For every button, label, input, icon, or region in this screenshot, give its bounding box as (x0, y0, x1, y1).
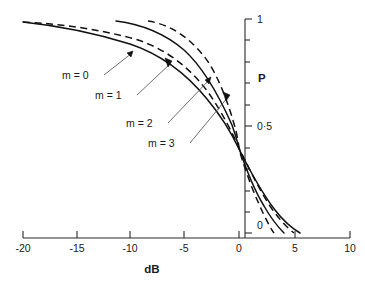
chart-canvas: -20 -15 -10 -5 0 5 10 1 0·5 0 dB P m = 0… (0, 0, 365, 286)
x-tick-label--15: -15 (69, 242, 84, 254)
x-tick-label--5: -5 (179, 242, 188, 254)
series-label-m3: m = 3 (148, 137, 175, 149)
leader-arrow-m3 (223, 92, 230, 101)
series-label-m0: m = 0 (62, 69, 89, 81)
series-label-m2: m = 2 (126, 117, 153, 129)
x-tick-label-0: 0 (236, 242, 242, 254)
curve-m1 (23, 22, 294, 233)
series-label-m1: m = 1 (95, 89, 122, 101)
x-axis-title: dB (144, 263, 159, 275)
y-axis (245, 19, 252, 238)
x-tick-label--20: -20 (15, 242, 30, 254)
y-tick-label-1: 1 (257, 13, 263, 25)
x-axis (23, 231, 350, 238)
x-tick-label-5: 5 (292, 242, 298, 254)
x-tick-label-10: 10 (344, 242, 356, 254)
series-labels: m = 0 m = 1 m = 2 m = 3 (62, 69, 175, 149)
y-axis-title: P (258, 72, 266, 84)
y-tick-label-0.5: 0·5 (257, 120, 272, 132)
leader-m1 (137, 63, 171, 95)
y-tick-label-0: 0 (257, 219, 263, 231)
leader-m0 (104, 53, 132, 75)
curve-m3 (148, 21, 274, 233)
chart-figure: -20 -15 -10 -5 0 5 10 1 0·5 0 dB P m = 0… (0, 0, 365, 286)
x-tick-label--10: -10 (122, 242, 137, 254)
leader-m2 (168, 79, 210, 123)
x-tick-labels: -20 -15 -10 -5 0 5 10 (15, 242, 356, 254)
